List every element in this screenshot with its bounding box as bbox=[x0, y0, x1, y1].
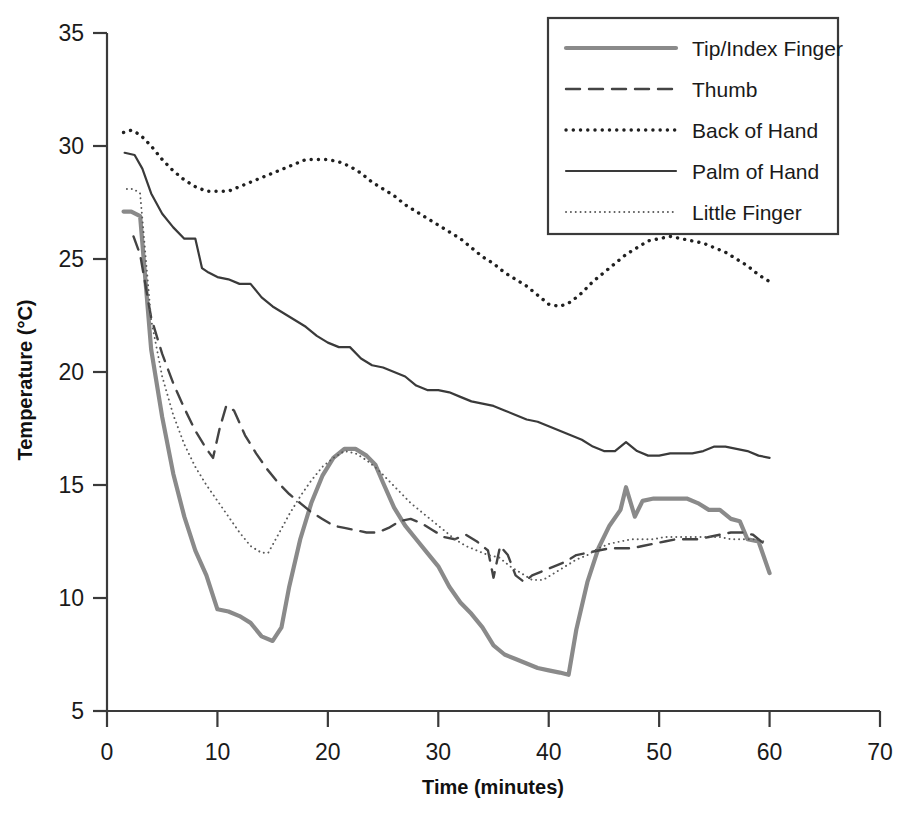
x-tick-label: 40 bbox=[536, 739, 562, 765]
y-tick-label: 30 bbox=[58, 133, 84, 159]
y-tick-label: 35 bbox=[58, 20, 84, 46]
x-tick-label: 50 bbox=[646, 739, 672, 765]
x-tick-label: 70 bbox=[867, 739, 893, 765]
x-tick-label: 10 bbox=[205, 739, 231, 765]
y-tick-label: 15 bbox=[58, 472, 84, 498]
chart-legend: Tip/Index FingerThumbBack of HandPalm of… bbox=[548, 18, 843, 234]
chart-figure: 5101520253035 010203040506070 Temperatur… bbox=[0, 0, 898, 826]
legend-label: Palm of Hand bbox=[692, 160, 819, 183]
y-tick-label: 10 bbox=[58, 585, 84, 611]
x-tick-label: 30 bbox=[425, 739, 451, 765]
temperature-time-line-chart: 5101520253035 010203040506070 Temperatur… bbox=[0, 0, 898, 826]
legend-label: Back of Hand bbox=[692, 119, 818, 142]
x-tick-label: 0 bbox=[101, 739, 114, 765]
x-axis-title: Time (minutes) bbox=[422, 776, 564, 798]
y-tick-label: 5 bbox=[71, 698, 84, 724]
y-tick-label: 20 bbox=[58, 359, 84, 385]
series-line-little-finger bbox=[127, 189, 764, 580]
legend-label: Little Finger bbox=[692, 201, 802, 224]
legend-label: Tip/Index Finger bbox=[692, 37, 843, 60]
x-tick-label: 60 bbox=[757, 739, 783, 765]
x-axis-ticks: 010203040506070 bbox=[101, 711, 893, 765]
y-tick-label: 25 bbox=[58, 246, 84, 272]
series-line-tip-index-finger bbox=[124, 212, 770, 675]
y-axis-title: Temperature (°C) bbox=[14, 300, 36, 461]
series-line-thumb bbox=[134, 236, 770, 582]
legend-label: Thumb bbox=[692, 78, 757, 101]
y-axis-ticks: 5101520253035 bbox=[58, 20, 107, 724]
x-tick-label: 20 bbox=[315, 739, 341, 765]
